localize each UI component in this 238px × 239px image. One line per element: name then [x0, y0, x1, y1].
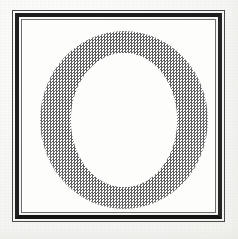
letter-o-glyph	[40, 31, 208, 209]
letter-o-counter	[71, 53, 177, 187]
frame-inner-field	[22, 20, 215, 212]
image-canvas	[0, 0, 238, 239]
